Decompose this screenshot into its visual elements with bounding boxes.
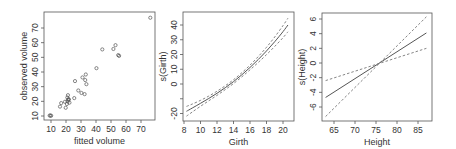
data-point [64, 106, 67, 109]
y-axis-title: s(Girth) [158, 52, 168, 82]
data-point [85, 83, 88, 86]
x-tick-label: 8 [182, 125, 187, 135]
data-point [95, 67, 98, 70]
y-tick-label: 40 [30, 67, 40, 77]
x-tick-label: 14 [229, 125, 239, 135]
y-tick-label: 20 [169, 50, 179, 60]
y-tick-label: 60 [30, 38, 40, 48]
x-axis: 10203040506070 [46, 120, 146, 134]
data-point [84, 73, 87, 76]
data-point [81, 76, 84, 79]
x-tick-label: 12 [212, 125, 222, 135]
y-tick-label: -20 [169, 107, 179, 120]
data-point [101, 48, 104, 51]
y-tick-label: 0 [169, 81, 179, 86]
x-tick-label: 70 [350, 125, 360, 135]
x-tick-label: 70 [136, 124, 146, 134]
y-tick-label: -6 [308, 103, 318, 111]
panel-s-girth: 8101214161820Girth-20010203040s(Girth) [158, 12, 294, 147]
figure: 10203040506070fitted volume1020304050607… [0, 0, 456, 149]
x-axis-title: fitted volume [74, 136, 125, 146]
x-tick-label: 10 [46, 124, 56, 134]
data-point [80, 91, 83, 94]
data-point [73, 79, 76, 82]
x-tick-label: 75 [371, 125, 381, 135]
data-point [84, 78, 87, 81]
y-tick-label: 70 [30, 23, 40, 33]
x-tick-label: 10 [196, 125, 206, 135]
plot-frame [183, 12, 294, 121]
data-point [118, 54, 121, 57]
y-tick-label: 30 [30, 82, 40, 92]
x-tick-label: 65 [329, 125, 339, 135]
data-point [73, 97, 76, 100]
x-tick-label: 16 [245, 125, 255, 135]
y-tick-label: -2 [308, 74, 318, 82]
data-point [149, 16, 152, 19]
x-tick-label: 50 [106, 124, 116, 134]
panel-s-height: 6570758085Height-6-4-20246s(Height) [297, 13, 432, 147]
y-tick-label: 2 [308, 46, 318, 51]
scatter-points [48, 16, 152, 117]
x-axis: 8101214161820 [182, 121, 288, 135]
data-point [112, 47, 115, 50]
smooth-fit-line [186, 25, 287, 111]
y-axis-title: observed volume [19, 32, 29, 101]
x-tick-label: 60 [121, 124, 131, 134]
y-tick-label: 40 [169, 20, 179, 30]
x-tick-label: 85 [413, 125, 423, 135]
y-tick-label: 4 [308, 31, 318, 36]
data-point [58, 105, 61, 108]
confidence-band-line [326, 48, 427, 80]
data-point [114, 44, 117, 47]
y-tick-label: 20 [30, 96, 40, 106]
x-axis: 6570758085 [329, 121, 423, 135]
panel-observed-vs-fitted: 10203040506070fitted volume1020304050607… [19, 12, 155, 146]
y-tick-label: 0 [308, 60, 318, 65]
x-tick-label: 80 [392, 125, 402, 135]
y-tick-label: -4 [308, 88, 318, 96]
x-axis-title: Girth [229, 137, 249, 147]
y-axis: -20010203040 [169, 20, 183, 120]
x-tick-label: 18 [262, 125, 272, 135]
confidence-band-line [186, 18, 287, 106]
y-axis: -6-4-20246 [308, 16, 322, 110]
data-point [77, 89, 80, 92]
confidence-band-line [326, 17, 427, 117]
plot-frame [322, 13, 432, 121]
x-tick-label: 20 [278, 125, 288, 135]
y-tick-label: 30 [169, 35, 179, 45]
y-tick-label: 10 [30, 111, 40, 121]
plot-frame [44, 12, 155, 120]
y-tick-label: 50 [30, 52, 40, 62]
x-tick-label: 40 [91, 124, 101, 134]
data-point [83, 93, 86, 96]
y-tick-label: 10 [169, 64, 179, 74]
y-axis-title: s(Height) [297, 49, 307, 86]
x-tick-label: 30 [76, 124, 86, 134]
x-tick-label: 20 [61, 124, 71, 134]
y-tick-label: 6 [308, 16, 318, 21]
x-axis-title: Height [364, 137, 391, 147]
y-axis: 10203040506070 [30, 23, 44, 121]
data-point [60, 101, 63, 104]
smooth-fit-line [326, 33, 427, 98]
